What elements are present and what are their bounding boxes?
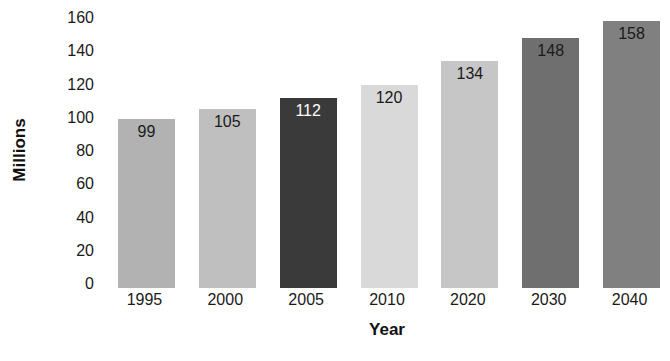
x-axis-tick-label: 2000 [185,291,266,309]
bar-group: 134 [441,0,498,288]
bar-chart: Millions 020406080100120140160 991051121… [0,0,670,361]
bar-value-label: 158 [603,24,660,44]
bar-group: 105 [199,0,256,288]
bar[interactable]: 158 [603,21,660,288]
bar-group: 148 [522,0,579,288]
y-axis-tick-labels: 020406080100120140160 [40,0,100,300]
y-axis-tick-label: 60 [76,175,94,193]
y-axis-tick-label: 120 [67,76,94,94]
bar-value-label: 120 [361,88,418,108]
y-axis-tick-label: 20 [76,242,94,260]
bar-group: 99 [118,0,175,288]
plot-area: 99105112120134148158 [104,0,670,288]
bar-value-label: 99 [118,122,175,142]
bar-group: 158 [603,0,660,288]
y-axis-title: Millions [0,0,40,300]
bar[interactable]: 134 [441,61,498,288]
y-axis-tick-label: 100 [67,109,94,127]
y-axis-title-label: Millions [10,118,30,181]
x-axis-tick-label: 2030 [508,291,589,309]
x-axis-tick-labels: 1995200020052010202020302040 [104,291,670,317]
x-axis-tick-label: 1995 [104,291,185,309]
x-axis-tick-label: 2020 [427,291,508,309]
bar[interactable]: 120 [361,85,418,289]
bar[interactable]: 148 [522,38,579,288]
y-axis-tick-label: 140 [67,42,94,60]
bar-value-label: 105 [199,112,256,132]
bar[interactable]: 105 [199,109,256,288]
y-axis-tick-label: 40 [76,209,94,227]
bar[interactable]: 112 [280,98,337,288]
x-axis-tick-label: 2010 [347,291,428,309]
x-axis-tick-label: 2040 [589,291,670,309]
bar-group: 120 [361,0,418,288]
bar[interactable]: 99 [118,119,175,288]
x-axis-title: Year [104,320,670,340]
bar-value-label: 148 [522,41,579,61]
bar-group: 112 [280,0,337,288]
x-axis-tick-label: 2005 [266,291,347,309]
y-axis-tick-label: 160 [67,9,94,27]
bar-value-label: 134 [441,64,498,84]
bar-value-label: 112 [280,101,337,121]
y-axis-tick-label: 0 [85,275,94,293]
y-axis-tick-label: 80 [76,142,94,160]
